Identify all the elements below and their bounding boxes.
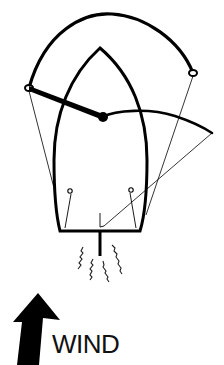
boom: [29, 86, 103, 120]
sailboat-diagram: WIND: [0, 0, 224, 365]
wind-label: WIND: [52, 331, 119, 357]
hull: [54, 48, 147, 231]
sail: [103, 111, 212, 133]
right-ring-icon: [189, 70, 197, 76]
traveler-arc: [29, 14, 193, 88]
mast: [98, 112, 108, 122]
